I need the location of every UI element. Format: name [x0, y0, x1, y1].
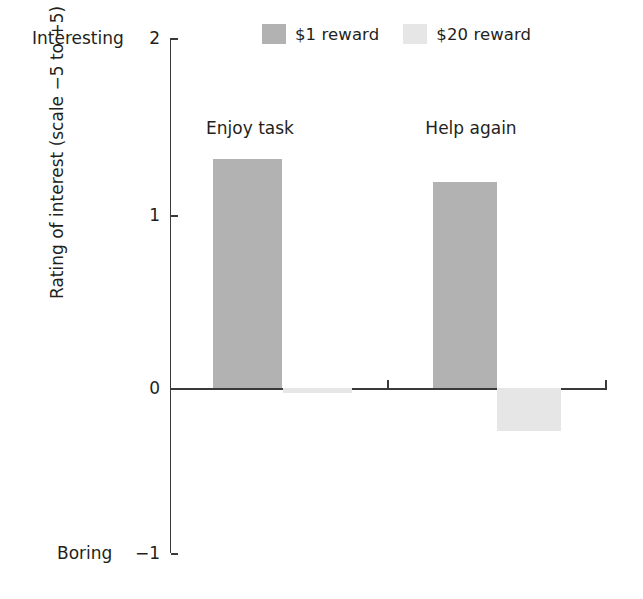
y-tick-mark-2: [171, 38, 178, 40]
bar-chart-figure: $1 reward $20 reward Interesting Boring …: [0, 0, 643, 599]
y-tick-label-2: 2: [130, 28, 160, 48]
y-tick-mark-neg-1: [171, 553, 178, 555]
bar-help-again-1-reward: [433, 182, 497, 389]
bar-help-again-20-reward: [497, 388, 561, 431]
y-axis-spine: [170, 38, 171, 553]
y-tick-label-neg-1: −1: [124, 543, 160, 563]
y-tick-mark-1: [171, 215, 178, 217]
y-tick-label-0: 0: [130, 378, 160, 398]
x-tick-axis-end: [605, 380, 607, 388]
y-tick-label-1: 1: [130, 205, 160, 225]
x-tick-group-separator: [387, 380, 389, 388]
y-axis-top-anchor-label: Interesting: [32, 28, 124, 48]
bar-enjoy-task-1-reward: [213, 159, 282, 388]
bar-enjoy-task-20-reward: [283, 388, 352, 393]
y-axis-bottom-anchor-label: Boring: [57, 543, 112, 563]
y-axis-title: Rating of interest (scale −5 to +5): [47, 6, 67, 299]
plot-area: [170, 38, 607, 553]
